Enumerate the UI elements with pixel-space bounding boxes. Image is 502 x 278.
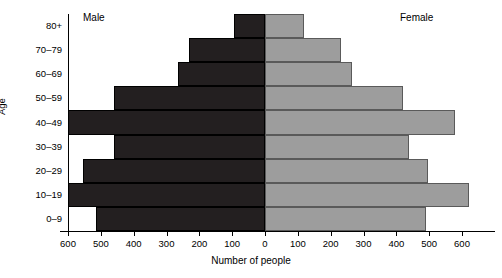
x-axis-tick-label: 600 [445, 238, 479, 249]
x-axis-tick [331, 231, 332, 236]
x-axis-tick [134, 231, 135, 236]
y-axis-tick-label: 40–49 [36, 117, 62, 128]
bar-male-60-69 [178, 62, 265, 86]
x-axis-tick [298, 231, 299, 236]
bar-female-20-29 [265, 159, 428, 183]
bar-female-50-59 [265, 86, 403, 110]
x-axis-tick-label: 500 [412, 238, 446, 249]
plot-area [68, 14, 462, 231]
x-axis-tick-label: 200 [314, 238, 348, 249]
x-axis-tick [68, 231, 69, 236]
y-axis-tick-label: 10–19 [36, 189, 62, 200]
bar-female-40-49 [265, 110, 455, 134]
pyramid-row [68, 38, 462, 62]
x-axis-tick-label: 100 [215, 238, 249, 249]
pyramid-row [68, 183, 462, 207]
x-axis-tick [462, 231, 463, 236]
y-axis-tick-label: 0–9 [46, 213, 62, 224]
bar-female-60-69 [265, 62, 352, 86]
x-axis-tick [429, 231, 430, 236]
x-axis-tick [199, 231, 200, 236]
x-axis-tick [232, 231, 233, 236]
y-axis-tick-label: 30–39 [36, 141, 62, 152]
y-axis-labels: 0–910–1920–2930–3940–4950–5960–6970–7980… [0, 14, 62, 231]
x-axis-tick-label: 300 [347, 238, 381, 249]
x-axis-tick [101, 231, 102, 236]
y-axis-tick-label: 50–59 [36, 92, 62, 103]
population-pyramid-chart: Male Female Age 0–910–1920–2930–3940–495… [0, 0, 502, 278]
bar-male-20-29 [83, 159, 265, 183]
bar-male-80- [234, 14, 265, 38]
bar-female-30-39 [265, 135, 409, 159]
pyramid-row [68, 207, 462, 231]
x-axis-tick-label: 0 [248, 238, 282, 249]
y-axis-tick-label: 60–69 [36, 68, 62, 79]
x-axis-tick-label: 100 [281, 238, 315, 249]
x-axis-title: Number of people [0, 255, 502, 266]
bar-female-70-79 [265, 38, 341, 62]
bar-male-50-59 [114, 86, 265, 110]
bar-male-70-79 [189, 38, 265, 62]
x-axis-tick-label: 400 [117, 238, 151, 249]
x-axis-tick [396, 231, 397, 236]
y-axis-tick-label: 70–79 [36, 44, 62, 55]
bar-male-40-49 [68, 110, 265, 134]
x-axis-tick [167, 231, 168, 236]
x-axis-tick-label: 400 [379, 238, 413, 249]
x-axis-tick-label: 500 [84, 238, 118, 249]
bar-male-0-9 [96, 207, 265, 231]
x-axis-tick [364, 231, 365, 236]
y-axis-tick-label: 80+ [46, 20, 62, 31]
bar-male-30-39 [114, 135, 265, 159]
pyramid-row [68, 62, 462, 86]
pyramid-row [68, 86, 462, 110]
pyramid-row [68, 159, 462, 183]
pyramid-row [68, 14, 462, 38]
bar-female-0-9 [265, 207, 426, 231]
pyramid-row [68, 135, 462, 159]
bar-female-80- [265, 14, 304, 38]
bar-male-10-19 [68, 183, 265, 207]
x-axis-tick [265, 231, 266, 236]
x-axis-tick-label: 300 [150, 238, 184, 249]
x-axis-tick-label: 600 [51, 238, 85, 249]
y-axis-tick-label: 20–29 [36, 165, 62, 176]
x-axis-tick-label: 200 [182, 238, 216, 249]
pyramid-row [68, 110, 462, 134]
bar-female-10-19 [265, 183, 469, 207]
